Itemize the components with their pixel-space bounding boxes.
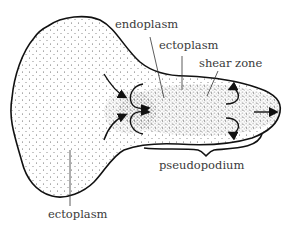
label-shear-zone: shear zone xyxy=(199,56,263,70)
amoeba-diagram: endoplasm ectoplasm shear zone pseudopod… xyxy=(0,0,292,230)
label-ectoplasm-bottom: ectoplasm xyxy=(48,207,108,221)
label-ectoplasm-top: ectoplasm xyxy=(159,38,219,52)
label-pseudopodium: pseudopodium xyxy=(159,158,244,172)
label-endoplasm: endoplasm xyxy=(115,17,178,31)
